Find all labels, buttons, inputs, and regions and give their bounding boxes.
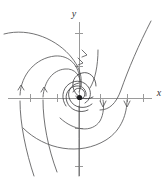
trajectory-curve [20,101,34,176]
phase-portrait-canvas: y x [0,0,167,184]
arrow-down-left-icon [82,50,87,57]
trajectory-curve [4,32,81,92]
trajectory-curve [90,50,98,88]
trajectory-curve [43,100,57,172]
trajectory-curve [23,100,127,149]
trajectory-curve [60,100,104,129]
trajectory-curve [20,56,80,95]
x-axis-label: x [156,87,162,98]
equilibrium-point [77,95,82,100]
phase-portrait-figure: y x [0,0,167,184]
y-axis-label: y [71,8,77,19]
